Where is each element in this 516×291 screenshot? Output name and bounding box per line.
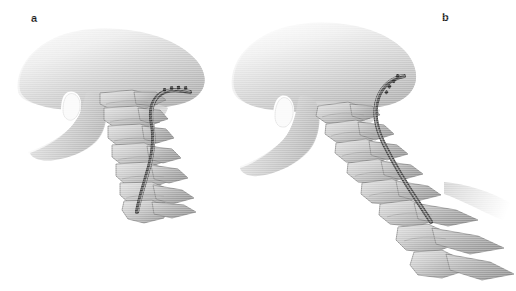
- panel-label-b: b: [442, 12, 449, 23]
- panel-label-a: a: [31, 13, 37, 24]
- figure-root: a b: [0, 0, 516, 291]
- panel-b: b: [220, 0, 516, 291]
